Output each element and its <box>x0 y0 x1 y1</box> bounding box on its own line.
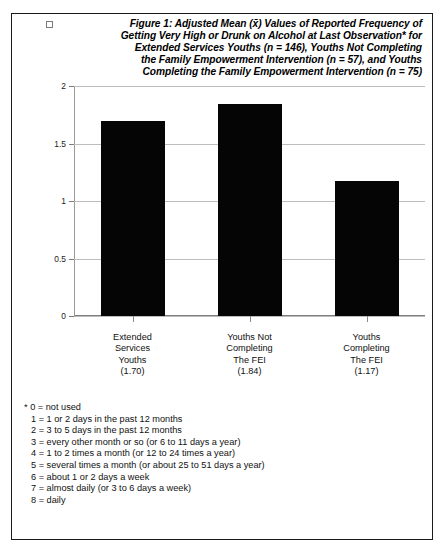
footnote-line: 7 = almost daily (or 3 to 6 days a week) <box>24 483 404 495</box>
figure-title-line: Extended Services Youths (n = 146), Yout… <box>24 42 422 54</box>
y-axis-tick <box>69 201 74 202</box>
figure-title: Figure 1: Adjusted Mean (x̄) Values of R… <box>24 18 422 78</box>
footnote-line: 4 = 1 to 2 times a month (or 12 to 24 ti… <box>24 448 404 460</box>
category-label-line: (1.17) <box>308 366 425 377</box>
footnote-line: 8 = daily <box>24 495 404 507</box>
category-label-line: (1.84) <box>191 366 308 377</box>
y-axis-tick-label: 1 <box>61 197 66 205</box>
footnote-line: 6 = about 1 or 2 days a week <box>24 472 404 484</box>
y-axis-tick-label: 2 <box>61 82 66 90</box>
x-axis-tick <box>133 316 134 322</box>
figure-title-line: Figure 1: Adjusted Mean (x̄) Values of R… <box>24 18 422 30</box>
x-axis-category-label: ExtendedServicesYouths(1.70) <box>74 332 191 378</box>
y-axis-tick <box>69 316 74 317</box>
y-axis-tick <box>69 86 74 87</box>
category-label-line: Youths <box>308 332 425 343</box>
x-axis-tick <box>250 316 251 322</box>
footnote-line: 3 = every other month or so (or 6 to 11 … <box>24 437 404 449</box>
y-axis-tick <box>69 144 74 145</box>
bar <box>335 181 399 316</box>
x-axis-tick <box>367 316 368 322</box>
x-axis-category-label: YouthsCompletingThe FEI(1.17) <box>308 332 425 378</box>
figure-title-line: Completing the Family Empowerment Interv… <box>24 66 422 78</box>
footnote-line: 5 = several times a month (or about 25 t… <box>24 460 404 472</box>
category-label-line: Youths Not <box>191 332 308 343</box>
y-axis-tick <box>69 259 74 260</box>
footnote-line: * 0 = not used <box>24 402 404 414</box>
gridline <box>74 86 425 87</box>
category-label-line: Services <box>74 343 191 354</box>
category-label-line: The FEI <box>191 355 308 366</box>
bar-chart: 00.511.52 <box>74 86 425 316</box>
category-label-line: (1.70) <box>74 366 191 377</box>
figure-title-line: the Family Empowerment Intervention (n =… <box>24 54 422 66</box>
category-label-line: Completing <box>191 343 308 354</box>
footnote-line: 1 = 1 or 2 days in the past 12 months <box>24 414 404 426</box>
y-axis-tick-label: 1.5 <box>54 139 66 147</box>
bar <box>218 104 282 316</box>
category-label-line: The FEI <box>308 355 425 366</box>
figure-title-line: Getting Very High or Drunk on Alcohol at… <box>24 30 422 42</box>
footnote-legend: * 0 = not used 1 = 1 or 2 days in the pa… <box>24 402 404 506</box>
x-axis-category-labels: ExtendedServicesYouths(1.70)Youths NotCo… <box>74 332 425 394</box>
category-label-line: Completing <box>308 343 425 354</box>
y-axis-tick-label: 0.5 <box>54 254 66 262</box>
category-label-line: Youths <box>74 355 191 366</box>
y-axis-tick-label: 0 <box>61 312 66 320</box>
footnote-line: 2 = 3 to 5 days in the past 12 months <box>24 425 404 437</box>
category-label-line: Extended <box>74 332 191 343</box>
x-axis-category-label: Youths NotCompletingThe FEI(1.84) <box>191 332 308 378</box>
bar <box>101 121 165 317</box>
figure-frame: Figure 1: Adjusted Mean (x̄) Values of R… <box>11 13 433 540</box>
